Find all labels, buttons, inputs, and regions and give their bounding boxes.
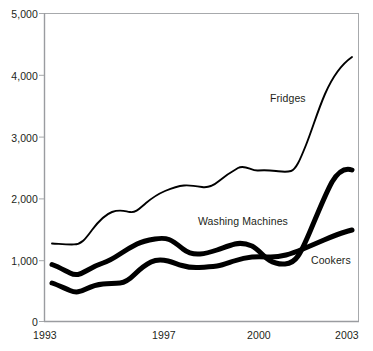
y-tick-label-5000: 5,000 xyxy=(0,8,38,20)
y-axis-ticks xyxy=(39,14,44,322)
y-tick-label-1000: 1,000 xyxy=(0,255,38,267)
y-tick-label-3000: 3,000 xyxy=(0,132,38,144)
chart-plot-area xyxy=(0,0,373,351)
axis-frame xyxy=(44,13,359,322)
y-tick-label-4000: 4,000 xyxy=(0,70,38,82)
x-tick-label-1997: 1997 xyxy=(152,329,176,341)
series-label-fridges: Fridges xyxy=(270,92,306,104)
y-tick-label-2000: 2,000 xyxy=(0,193,38,205)
series-label-cookers: Cookers xyxy=(311,254,351,266)
x-tick-label-1993: 1993 xyxy=(33,329,57,341)
y-tick-label-0: 0 xyxy=(0,316,38,328)
x-tick-label-2000: 2000 xyxy=(247,329,271,341)
x-tick-label-2003: 2003 xyxy=(335,329,359,341)
chart-container: 5,000 4,000 3,000 2,000 1,000 0 1993 199… xyxy=(0,0,373,351)
series-label-washing-machines: Washing Machines xyxy=(198,215,288,227)
